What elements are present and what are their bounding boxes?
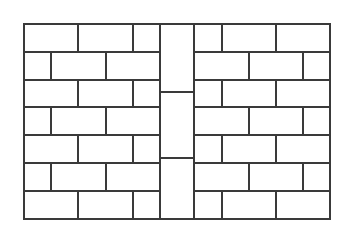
right-brick-panel — [194, 24, 330, 219]
brick-wall-diagram — [0, 0, 353, 239]
outer-border — [24, 24, 330, 219]
center-column — [160, 92, 194, 158]
wall-outline — [24, 24, 330, 219]
left-brick-panel — [24, 24, 160, 219]
